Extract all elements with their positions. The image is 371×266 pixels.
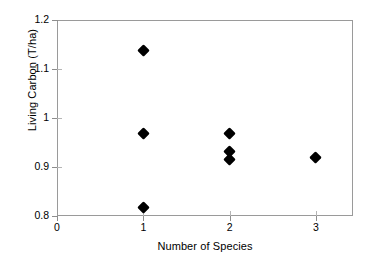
y-axis-title: Living Carbon (T/ha) [26,0,38,180]
y-tick-label: 1 [9,112,49,122]
x-tick-label: 0 [42,222,72,233]
x-tick-label: 2 [215,222,245,233]
y-tick-label: 0.8 [9,210,49,220]
x-axis-title: Number of Species [57,240,353,252]
y-tick-label: 0.9 [9,161,49,171]
x-tick-inner-mark [143,211,144,216]
chart-figure: Living Carbon (T/ha) Number of Species 0… [0,0,371,266]
y-tick-label: 1.1 [9,63,49,73]
y-tick-inner-mark [57,69,62,70]
y-tick-inner-mark [57,118,62,119]
x-tick-label: 3 [301,222,331,233]
x-tick-inner-mark [316,211,317,216]
x-tick-label: 1 [128,222,158,233]
x-tick-inner-mark [230,211,231,216]
y-tick-label: 1.2 [9,14,49,24]
y-tick-mark [52,20,58,21]
plot-area [57,20,353,216]
y-tick-inner-mark [57,167,62,168]
